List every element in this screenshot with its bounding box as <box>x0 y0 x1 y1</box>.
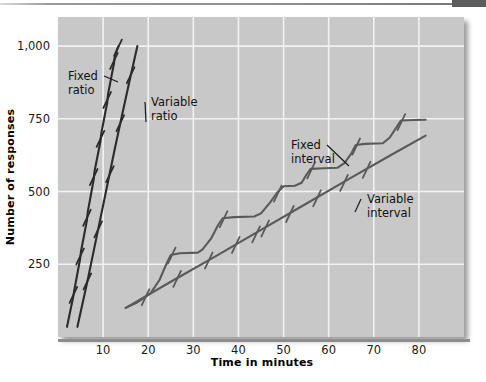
top-rule-divider <box>0 3 486 5</box>
x-tick-label-20: 20 <box>141 343 156 357</box>
y-axis-title: Number of responses <box>4 109 17 246</box>
y-tick-label-500: 500 <box>28 185 50 199</box>
x-tick-label-40: 40 <box>231 343 246 357</box>
cumulative-record-chart: FixedratioVariableratioFixedintervalVari… <box>0 0 486 382</box>
figure-container: FixedratioVariableratioFixedintervalVari… <box>0 0 486 382</box>
annotation-line: ratio <box>68 83 95 97</box>
annotation-line: Fixed <box>68 69 98 83</box>
x-tick-label-70: 70 <box>366 343 381 357</box>
y-axis-tick-labels: 2505007501,000 <box>17 39 50 271</box>
top-right-marker <box>452 0 486 7</box>
x-axis-tick-labels: 1020304050607080 <box>96 343 426 357</box>
x-tick-label-80: 80 <box>412 343 427 357</box>
x-tick-label-50: 50 <box>276 343 291 357</box>
x-tick-label-60: 60 <box>321 343 336 357</box>
annotation-line: interval <box>367 206 411 220</box>
annotation-line: interval <box>291 152 335 166</box>
annotation-line: Fixed <box>291 138 321 152</box>
plot-area-background <box>58 17 464 337</box>
x-tick-label-30: 30 <box>186 343 201 357</box>
annotation-line: Variable <box>151 95 198 109</box>
x-axis-title: Time in minutes <box>211 356 314 369</box>
annotation-line: ratio <box>151 109 178 123</box>
y-tick-label-250: 250 <box>28 257 50 271</box>
x-tick-label-10: 10 <box>96 343 111 357</box>
y-tick-label-750: 750 <box>28 112 50 126</box>
y-tick-label-1000: 1,000 <box>17 39 50 53</box>
annotation-line: Variable <box>367 192 414 206</box>
